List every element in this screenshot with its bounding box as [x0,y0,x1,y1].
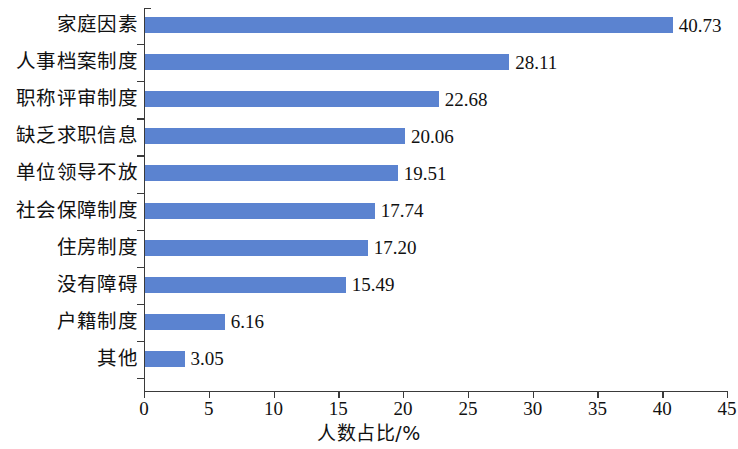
x-axis-tick [468,391,469,398]
x-axis-tick [209,391,210,398]
bar-value-label: 3.05 [191,349,224,368]
category-label: 职称评审制度 [0,89,138,109]
x-axis-tick [597,391,598,398]
bar-value-label: 17.74 [381,201,424,220]
category-label: 单位领导不放 [0,163,138,183]
category-label: 缺乏求职信息 [0,126,138,146]
bar [145,54,509,70]
bar [145,91,439,107]
x-axis-tick [727,391,728,398]
category-label: 人事档案制度 [0,52,138,72]
bar-row: 住房制度17.20 [0,233,738,270]
bar [145,203,375,219]
bar-row: 户籍制度6.16 [0,307,738,344]
x-axis-tick-label: 40 [653,399,672,418]
bar-row: 社会保障制度17.74 [0,196,738,233]
x-axis-tick-label: 15 [329,399,348,418]
bar-value-label: 20.06 [411,127,454,146]
x-axis-tick-label: 20 [394,399,413,418]
bar-value-label: 17.20 [374,238,417,257]
bar-row: 缺乏求职信息20.06 [0,121,738,158]
bar-value-label: 28.11 [515,53,557,72]
bar [145,165,398,181]
x-axis-tick [533,391,534,398]
x-axis-tick-label: 25 [458,399,477,418]
bar-row: 职称评审制度22.68 [0,84,738,121]
bar-value-label: 22.68 [445,90,488,109]
x-axis-tick [338,391,339,398]
x-axis-tick-label: 10 [264,399,283,418]
bar [145,351,185,367]
bar [145,240,368,256]
category-label: 家庭因素 [0,15,138,35]
category-label: 没有障碍 [0,275,138,295]
bar-row: 人事档案制度28.11 [0,47,738,84]
x-axis-title: 人数占比/% [0,424,738,443]
x-axis-tick-label: 45 [718,399,737,418]
x-axis-tick-label: 0 [139,399,149,418]
x-axis-tick [144,391,145,398]
bar [145,314,225,330]
x-axis-tick-label: 30 [523,399,542,418]
x-axis-tick [274,391,275,398]
bar-row: 家庭因素40.73 [0,10,738,47]
category-label: 户籍制度 [0,312,138,332]
x-axis-tick [662,391,663,398]
bar [145,277,346,293]
bar [145,17,673,33]
bar-value-label: 40.73 [679,16,722,35]
plot-area: 家庭因素40.73人事档案制度28.11职称评审制度22.68缺乏求职信息20.… [0,0,738,449]
bar-value-label: 19.51 [404,164,447,183]
category-label: 社会保障制度 [0,201,138,221]
bar-value-label: 15.49 [352,275,395,294]
bar-row: 没有障碍15.49 [0,270,738,307]
category-label: 其他 [0,349,138,369]
bar-chart: 家庭因素40.73人事档案制度28.11职称评审制度22.68缺乏求职信息20.… [0,0,738,449]
x-axis-tick-label: 5 [204,399,214,418]
bar-row: 其他3.05 [0,344,738,381]
x-axis-line [144,391,728,392]
category-label: 住房制度 [0,238,138,258]
x-axis-tick [403,391,404,398]
bar-row: 单位领导不放19.51 [0,158,738,195]
bar-value-label: 6.16 [231,312,264,331]
x-axis-tick-label: 35 [588,399,607,418]
bar [145,128,405,144]
